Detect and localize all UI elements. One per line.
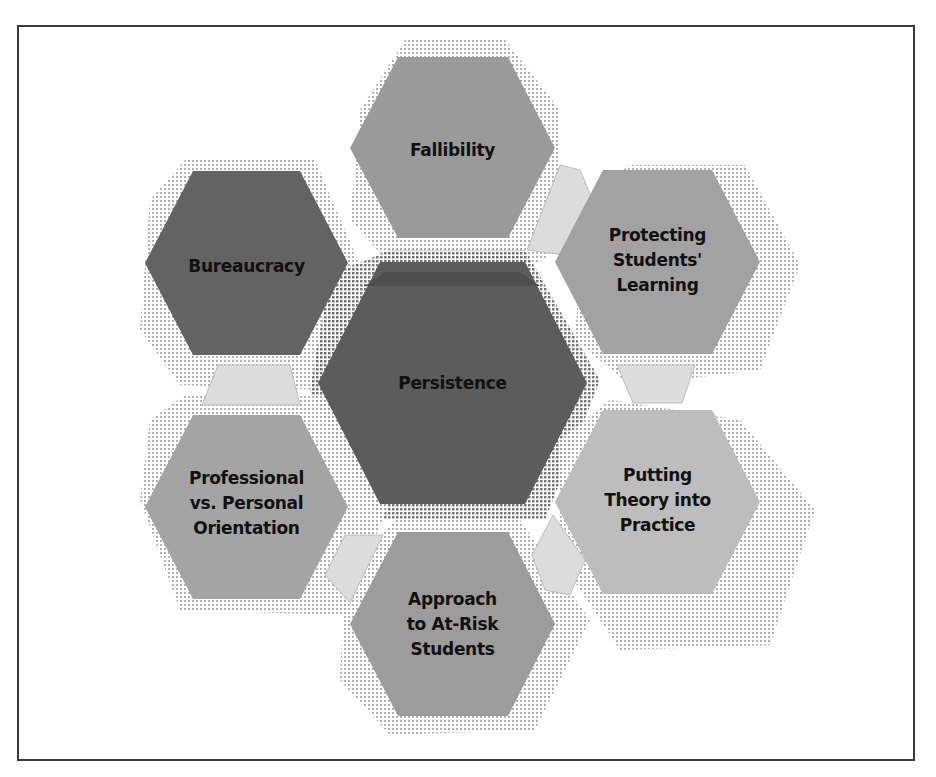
hex-label-line: Students: [410, 637, 494, 662]
hex-label-protecting: Protecting Students' Learning: [555, 220, 760, 300]
hex-label-line: Approach: [408, 587, 497, 612]
hex-label-fallibility: Fallibility: [350, 130, 555, 170]
hex-label-line: Protecting: [609, 223, 706, 248]
hex-label-line: Professional: [189, 466, 304, 491]
hex-label-line: vs. Personal: [190, 491, 304, 516]
hex-label-line: Theory into: [604, 488, 711, 513]
hex-label-line: to At-Risk: [407, 612, 498, 637]
connector-protecting-putting: [617, 365, 695, 403]
hex-label-line: Learning: [616, 273, 698, 298]
hex-label-approach: Approach to At-Risk Students: [350, 584, 555, 664]
hex-label-professional: Professional vs. Personal Orientation: [145, 463, 348, 543]
hex-label-putting: Putting Theory into Practice: [555, 460, 760, 540]
hex-label-persistence: Persistence: [318, 365, 587, 401]
hex-label-line: Students': [613, 248, 702, 273]
hex-label-line: Orientation: [193, 516, 299, 541]
hex-label-bureaucracy: Bureaucracy: [145, 248, 348, 284]
hex-label-line: Putting: [623, 463, 692, 488]
hex-persistence-cap: [365, 272, 540, 286]
connector-bureaucracy-professional: [202, 365, 300, 405]
hex-label-line: Practice: [620, 513, 696, 538]
